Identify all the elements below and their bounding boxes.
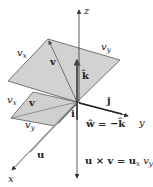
v-upper-label: v — [49, 56, 57, 67]
y-axis-label: y — [138, 117, 145, 128]
k-label: k̂ — [81, 69, 90, 81]
u-label: u — [37, 149, 44, 160]
y-axis — [77, 102, 128, 116]
x-axis-label: x — [8, 173, 14, 184]
v-lower-label: v — [28, 97, 36, 108]
i-label: i — [71, 108, 75, 119]
cross-product-equation: u × v = ux vy k̂ — [85, 154, 153, 168]
upper-vy-label: vy — [101, 41, 112, 54]
j-label: j — [106, 95, 111, 106]
cross-product-diagram: z y x k̂ j i u v v vx vy vx vy ŵ = −k̂ u… — [0, 0, 153, 187]
z-axis-label: z — [83, 5, 90, 16]
upper-vx-label: vx — [17, 47, 27, 60]
w-equation: ŵ = −k̂ — [85, 117, 126, 129]
lower-vx-label: vx — [7, 94, 17, 107]
